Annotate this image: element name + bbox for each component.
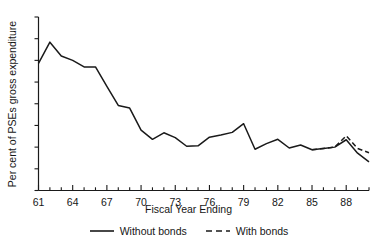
- legend-entry: Without bonds: [89, 226, 187, 237]
- solid-line-icon: [89, 226, 115, 236]
- dashed-line-icon: [205, 226, 231, 236]
- chart-figure: Per cent of PSEs gross expenditure 05101…: [0, 0, 377, 245]
- chart-legend: Without bondsWith bonds: [0, 226, 377, 237]
- x-axis-title: Fiscal Year Ending: [0, 203, 377, 215]
- legend-entry: With bonds: [205, 226, 289, 237]
- legend-label: Without bonds: [120, 226, 187, 237]
- legend-label: With bonds: [236, 226, 289, 237]
